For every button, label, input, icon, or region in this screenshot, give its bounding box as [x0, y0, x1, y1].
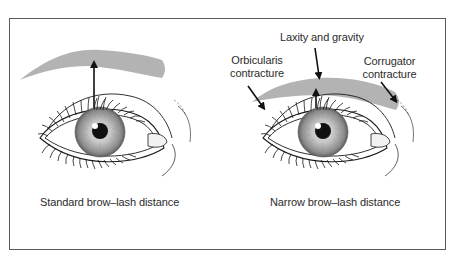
- eye-illustration: [0, 0, 457, 264]
- annotation-orbicularis-line2: contracture: [222, 67, 292, 80]
- eyebrow-standard: [20, 50, 165, 80]
- standard-panel: [20, 50, 191, 176]
- annotation-laxity-gravity: Laxity and gravity: [280, 31, 364, 44]
- annotation-corrugator-line1: Corrugator: [352, 55, 427, 68]
- laxity-gravity-arrow: [315, 48, 319, 76]
- annotation-orbicularis-line1: Orbicularis: [222, 54, 292, 67]
- annotation-corrugator: Corrugator contracture: [352, 55, 427, 81]
- annotation-corrugator-line2: contracture: [352, 68, 427, 81]
- caption-standard: Standard brow–lash distance: [40, 196, 179, 209]
- eyebrow-narrow: [252, 78, 399, 110]
- caption-narrow: Narrow brow–lash distance: [270, 196, 400, 209]
- annotation-orbicularis: Orbicularis contracture: [222, 54, 292, 80]
